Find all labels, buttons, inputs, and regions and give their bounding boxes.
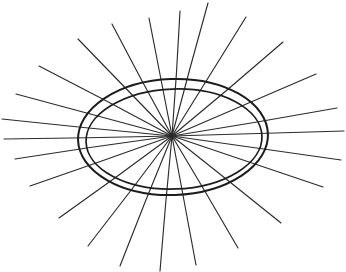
figure-canvas	[0, 0, 346, 272]
line-drawing-svg	[0, 0, 346, 272]
